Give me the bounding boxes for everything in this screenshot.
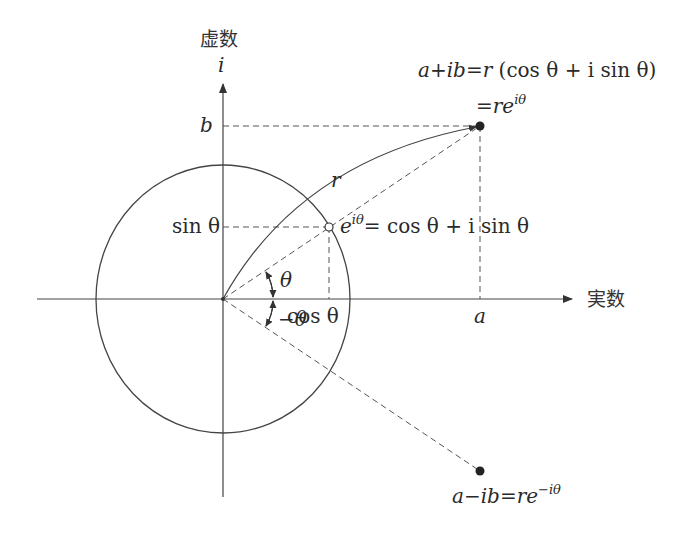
exp-exponent: iθ: [514, 92, 526, 107]
theta-label: θ: [280, 270, 292, 290]
neg-theta-label: −θ: [278, 309, 307, 329]
a-tick-label: a: [474, 306, 486, 326]
conjugate-formula: a−ib=re−iθ: [452, 486, 561, 506]
ray-to-a-minus-ib: [223, 299, 480, 471]
b-tick-label: b: [200, 115, 213, 135]
point-a-minus-ib: [476, 467, 485, 476]
conj-base: re: [517, 484, 538, 508]
conj-eq: =: [500, 484, 517, 508]
theta-angle-arc-base: [266, 272, 273, 297]
r-label: r: [331, 170, 341, 190]
neg-theta-angle-arc: [266, 301, 273, 326]
euler-formula: eiθ= cos θ + i sin θ: [340, 216, 529, 236]
polar-paren: (cos θ + i sin θ): [499, 58, 657, 82]
real-axis-label: 実数: [587, 290, 625, 309]
conj-exponent: −iθ: [538, 482, 561, 497]
exponential-form-formula: =reiθ: [476, 96, 526, 116]
euler-exponent: iθ: [352, 212, 364, 227]
origin-point: [221, 297, 225, 301]
imaginary-unit-label: i: [218, 55, 224, 75]
imaginary-axis-label: 虚数: [200, 30, 238, 49]
conj-lhs: a−ib: [452, 484, 500, 508]
polar-r: r: [483, 58, 493, 82]
euler-base: e: [340, 214, 352, 238]
polar-eq: =: [466, 58, 483, 82]
exp-base: re: [493, 94, 514, 118]
exp-eq: =: [476, 94, 493, 118]
point-a-plus-ib: [476, 122, 485, 131]
polar-form-formula: a+ib=r (cos θ + i sin θ): [418, 60, 656, 80]
sin-theta-tick-label: sin θ: [172, 216, 220, 236]
euler-rhs: = cos θ + i sin θ: [364, 214, 529, 238]
neg-theta-angle-arc-base: [266, 301, 273, 326]
polar-lhs: a+ib: [418, 58, 466, 82]
point-e-i-theta: [325, 223, 333, 231]
euler-formula-diagram: 虚数 i 実数 b sin θ cos θ a r θ −θ a+ib=r (c…: [0, 0, 684, 536]
theta-angle-arc: [266, 272, 273, 297]
